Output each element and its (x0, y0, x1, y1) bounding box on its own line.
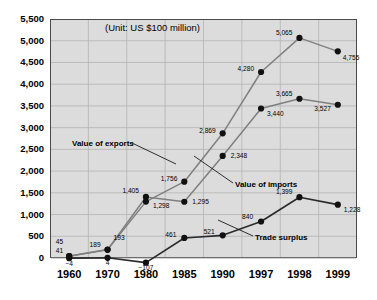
data-point-value-label: 4,755 (343, 54, 360, 61)
data-point-value-label: 2,348 (231, 152, 248, 159)
data-point-value-label: −107 (126, 264, 166, 271)
y-axis-tick-label: 5,500 (0, 14, 44, 24)
data-point-value-label: 4,280 (0, 65, 254, 72)
data-point-value-label: 1,756 (0, 175, 177, 182)
y-axis-tick-label: 5,000 (0, 36, 44, 46)
data-point-value-label: 189 (0, 241, 101, 248)
series-annotation-label: Value of imports (235, 180, 297, 189)
data-point-value-label: 3,527 (0, 105, 331, 112)
series-annotation-label: Value of exports (72, 139, 134, 148)
x-axis-tick-label: 1999 (315, 268, 361, 280)
y-axis-tick-label: 0 (0, 253, 44, 263)
data-point-value-label: 1,228 (344, 206, 361, 213)
data-point-value-label: 2,869 (0, 127, 216, 134)
data-point-value-label: 840 (0, 213, 253, 220)
trade-line-chart: 05001,0001,5002,0002,5003,0003,5004,0004… (0, 0, 377, 300)
series-annotation-label: Trade surplus (255, 233, 307, 242)
y-axis-tick-label: 4,000 (0, 79, 44, 89)
data-point-value-label: 5,065 (0, 29, 292, 36)
y-axis-tick-label: 2,500 (0, 144, 44, 154)
data-point-value-label: 1,298 (153, 202, 170, 209)
data-point-value-label: 521 (0, 228, 215, 235)
data-point-value-label: −4 (49, 260, 89, 267)
data-point-value-label: 3,665 (0, 90, 292, 97)
data-point-value-label: 1,295 (192, 198, 209, 205)
data-point-value-label: 4 (88, 259, 128, 266)
